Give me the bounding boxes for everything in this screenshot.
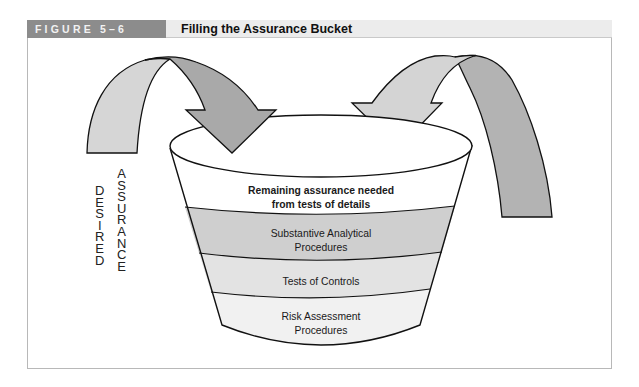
layer-label-line: Substantive Analytical (231, 226, 411, 240)
layer-label-risk-assessment: Risk Assessment Procedures (231, 309, 411, 337)
left-arrow-tail (87, 58, 170, 153)
layer-label-tests-of-controls: Tests of Controls (231, 274, 411, 288)
layer-label-line: Tests of Controls (231, 274, 411, 288)
layer-label-line: Procedures (231, 240, 411, 254)
layer-label-line: Remaining assurance needed (231, 183, 411, 197)
letter: D (95, 255, 104, 267)
right-arrow-tail (455, 55, 552, 217)
layer-label-substantive-analytical: Substantive Analytical Procedures (231, 226, 411, 254)
layer-label-remaining-assurance: Remaining assurance needed from tests of… (231, 183, 411, 211)
side-label-desired: D E S I R E D (95, 185, 104, 266)
side-label-assurance: A S S U R A N C E (117, 168, 126, 272)
letter: E (117, 261, 126, 273)
layer-label-line: from tests of details (231, 197, 411, 211)
layer-label-line: Risk Assessment (231, 309, 411, 323)
layer-label-line: Procedures (231, 323, 411, 337)
